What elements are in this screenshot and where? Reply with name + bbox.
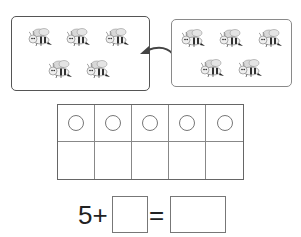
ten-frame-cell[interactable] (58, 142, 95, 179)
addend-2-answer-box[interactable] (112, 196, 148, 233)
bee-icon (218, 28, 244, 48)
curved-arrow-left-icon (136, 40, 176, 62)
ten-frame-cell[interactable] (206, 142, 243, 179)
plus-sign: + (92, 200, 107, 230)
ten-frame-cell[interactable] (58, 105, 95, 142)
circle-icon (217, 115, 233, 131)
bee-icon (199, 58, 225, 78)
ten-frame-cell[interactable] (169, 142, 206, 179)
circle-icon (68, 115, 84, 131)
ten-frame-cell[interactable] (132, 105, 169, 142)
bee-icon (85, 59, 111, 79)
bee-icon (27, 27, 53, 47)
bee-icon (257, 28, 283, 48)
ten-frame-cell[interactable] (95, 105, 132, 142)
bee-icon (104, 27, 130, 47)
ten-frame-cell[interactable] (132, 142, 169, 179)
bee-icon (65, 27, 91, 47)
bee-icon (237, 58, 263, 78)
circle-icon (142, 115, 158, 131)
bee-icon (47, 59, 73, 79)
left-bee-group (11, 16, 150, 91)
ten-frame-cell[interactable] (206, 105, 243, 142)
circle-icon (179, 115, 195, 131)
right-bee-group (171, 19, 292, 87)
circle-icon (105, 115, 121, 131)
sum-answer-box[interactable] (170, 196, 226, 233)
bee-icon (180, 28, 206, 48)
ten-frame-cell[interactable] (169, 105, 206, 142)
ten-frame-cell[interactable] (95, 142, 132, 179)
equation-addend-plus: 5+ (78, 202, 108, 228)
equals-sign: = (149, 202, 164, 228)
ten-frame (57, 104, 244, 180)
addend-1: 5 (78, 200, 92, 230)
